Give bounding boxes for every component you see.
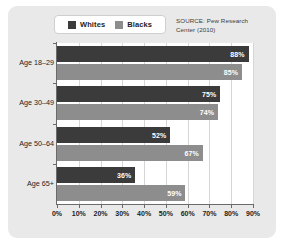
bar-whites-0: 88%	[57, 46, 249, 62]
legend-entry-whites: Whites	[68, 20, 105, 29]
bar-value-label: 75%	[202, 91, 216, 98]
bar-value-label: 67%	[185, 149, 199, 156]
x-axis-line	[56, 204, 254, 205]
x-axis-tick-mark	[101, 205, 102, 208]
bar-whites-3: 36%	[57, 167, 135, 183]
x-axis-tick-label: 20%	[94, 210, 108, 217]
y-axis-tick-mark	[53, 124, 57, 125]
bar-value-label: 85%	[224, 69, 238, 76]
x-axis-tick-label: 30%	[115, 210, 129, 217]
legend-swatch-whites	[68, 21, 76, 29]
bar-value-label: 74%	[200, 109, 214, 116]
bar-blacks-3: 59%	[57, 185, 185, 201]
bar-value-label: 88%	[230, 51, 244, 58]
bar-value-label: 36%	[117, 171, 131, 178]
legend-label-whites: Whites	[80, 20, 105, 29]
x-axis-tick-mark	[209, 205, 210, 208]
legend-entry-blacks: Blacks	[115, 20, 152, 29]
y-axis-tick-mark	[53, 164, 57, 165]
x-axis-tick-mark	[166, 205, 167, 208]
source-note: SOURCE: Pew Research Center (2010)	[176, 16, 276, 35]
x-axis-tick-mark	[253, 205, 254, 208]
bar-blacks-2: 67%	[57, 145, 203, 161]
x-axis-tick-mark	[231, 205, 232, 208]
bar-whites-1: 75%	[57, 86, 220, 102]
bar-value-label: 52%	[152, 131, 166, 138]
bar-value-label: 59%	[167, 189, 181, 196]
bar-blacks-1: 74%	[57, 104, 218, 120]
y-axis-tick-mark-top	[53, 43, 57, 44]
category-label-3: Age 65+	[2, 179, 54, 188]
category-label-2: Age 50–64	[2, 139, 54, 148]
x-axis-tick-mark	[57, 205, 58, 208]
x-axis-tick-label: 90%	[246, 210, 260, 217]
source-note-line-2: Center (2010)	[176, 25, 276, 34]
x-axis-tick-mark	[122, 205, 123, 208]
y-axis-tick-mark	[53, 83, 57, 84]
bar-blacks-0: 85%	[57, 64, 242, 80]
category-label-1: Age 30–49	[2, 98, 54, 107]
plot-area: 88%85%75%74%52%67%36%59%	[57, 43, 253, 204]
x-axis-tick-mark	[79, 205, 80, 208]
chart-figure: Whites Blacks SOURCE: Pew Research Cente…	[0, 0, 284, 246]
x-axis-tick-mark	[144, 205, 145, 208]
x-axis-tick-label: 70%	[202, 210, 216, 217]
x-axis-tick-label: 40%	[137, 210, 151, 217]
gridline	[253, 43, 254, 204]
source-note-line-1: SOURCE: Pew Research	[176, 16, 276, 25]
x-axis-tick-label: 0%	[52, 210, 62, 217]
x-axis-tick-label: 80%	[224, 210, 238, 217]
category-label-0: Age 18–29	[2, 58, 54, 67]
x-axis-tick-mark	[188, 205, 189, 208]
x-axis-tick-label: 60%	[181, 210, 195, 217]
x-axis-tick-label: 50%	[159, 210, 173, 217]
legend-label-blacks: Blacks	[127, 20, 152, 29]
chart-legend: Whites Blacks	[54, 15, 166, 34]
x-axis-tick-label: 10%	[72, 210, 86, 217]
legend-swatch-blacks	[115, 21, 123, 29]
bar-whites-2: 52%	[57, 127, 170, 143]
